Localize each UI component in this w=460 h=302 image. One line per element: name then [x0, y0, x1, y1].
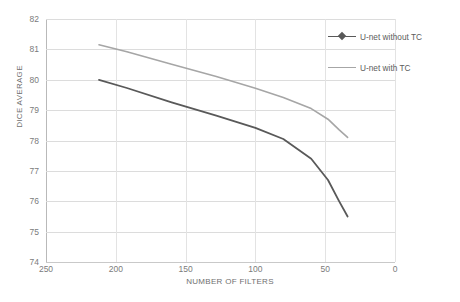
x-axis-title: NUMBER OF FILTERS [0, 277, 460, 286]
legend-item-unet-with-tc[interactable]: U-net with TC [328, 59, 454, 76]
series-line-unet-without-tc [99, 80, 348, 217]
y-tick-label: 77 [6, 166, 39, 176]
y-tick-label: 82 [6, 14, 39, 24]
x-tick-label: 200 [91, 264, 141, 274]
diamond-marker-icon [338, 31, 346, 39]
legend-label: U-net with TC [360, 63, 411, 73]
y-tick-label: 75 [6, 227, 39, 237]
y-tick-label: 76 [6, 196, 39, 206]
x-tick-label: 250 [21, 264, 71, 274]
legend-item-unet-without-tc[interactable]: U-net without TC [328, 28, 454, 45]
x-tick-label: 50 [300, 264, 350, 274]
y-axis-title: DICE AVERAGE [15, 42, 24, 152]
x-tick-label: 0 [370, 264, 420, 274]
legend-label: U-net without TC [360, 32, 422, 42]
legend-swatch-line-marker-icon [328, 32, 356, 42]
gridline-74-axis [46, 262, 395, 263]
chart-container: 82 81 80 79 78 77 76 75 74 250 200 150 1… [0, 0, 460, 302]
x-tick-label: 150 [161, 264, 211, 274]
x-tick-label: 100 [230, 264, 280, 274]
chart-legend: U-net without TC U-net with TC [328, 28, 454, 90]
legend-swatch-line-icon [328, 63, 356, 73]
